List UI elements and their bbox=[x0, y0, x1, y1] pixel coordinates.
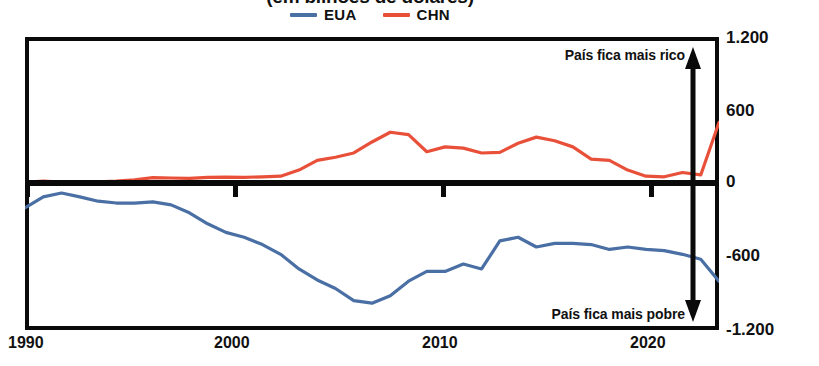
series-line-eua bbox=[25, 193, 719, 303]
legend-item-eua: EUA bbox=[290, 6, 357, 23]
y-label-1200: 1.200 bbox=[726, 28, 769, 48]
y-label-neg1200: -1.200 bbox=[726, 320, 774, 340]
legend-item-chn: CHN bbox=[383, 6, 450, 23]
x-tick-2010 bbox=[441, 186, 446, 197]
legend-label-eua: EUA bbox=[324, 6, 357, 23]
plot-area: País fica mais rico País fica mais pobre bbox=[25, 37, 719, 330]
chart-root: (em bilhões de dólares) EUA CHN País fic… bbox=[0, 0, 819, 366]
annotation-poorer: País fica mais pobre bbox=[552, 306, 685, 322]
direction-arrow-icon bbox=[684, 47, 702, 322]
x-tick-1990 bbox=[25, 186, 30, 197]
y-label-600: 600 bbox=[726, 101, 754, 121]
y-label-0: 0 bbox=[726, 172, 735, 192]
x-tick-2020 bbox=[649, 186, 654, 197]
series-line-chn bbox=[25, 122, 719, 182]
x-label-2010: 2010 bbox=[422, 334, 458, 352]
annotation-richer: País fica mais rico bbox=[565, 47, 685, 63]
legend-swatch-eua bbox=[290, 13, 317, 17]
x-tick-2000 bbox=[233, 186, 238, 197]
x-label-2020: 2020 bbox=[630, 334, 666, 352]
y-label-neg600: -600 bbox=[726, 246, 760, 266]
chart-legend: EUA CHN bbox=[0, 6, 740, 23]
zero-axis-line bbox=[25, 180, 719, 186]
legend-swatch-chn bbox=[383, 13, 410, 17]
x-label-1990: 1990 bbox=[8, 334, 44, 352]
x-label-2000: 2000 bbox=[214, 334, 250, 352]
legend-label-chn: CHN bbox=[417, 6, 450, 23]
